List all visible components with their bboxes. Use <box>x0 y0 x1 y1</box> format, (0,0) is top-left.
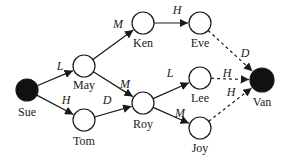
node-roy <box>132 92 154 114</box>
edge-label-may-roy: M <box>119 77 131 91</box>
node-may <box>73 55 95 77</box>
directed-graph-diagram: LHMMDHLMDHHSueMayTomKenEveRoyLeeJoyVan <box>0 0 283 167</box>
node-label-ken: Ken <box>133 36 153 50</box>
node-label-tom: Tom <box>73 134 95 148</box>
edge-sue-may <box>37 71 73 86</box>
edge-may-ken <box>93 30 133 59</box>
node-label-may: May <box>73 78 95 92</box>
node-label-van: Van <box>253 95 272 109</box>
node-label-lee: Lee <box>191 91 209 105</box>
node-lee <box>189 67 211 89</box>
node-label-roy: Roy <box>133 117 153 131</box>
edge-label-may-ken: M <box>112 17 124 31</box>
edge-label-roy-lee: L <box>166 66 174 80</box>
edge-label-eve-van: D <box>240 46 250 60</box>
edge-label-sue-may: L <box>56 59 64 73</box>
edge-label-tom-roy: D <box>102 93 112 107</box>
node-joy <box>189 117 211 139</box>
edge-label-sue-tom: H <box>61 93 72 107</box>
node-ken <box>132 12 154 34</box>
edge-roy-lee <box>153 83 189 99</box>
node-tom <box>73 109 95 131</box>
node-eve <box>189 12 211 34</box>
node-label-sue: Sue <box>18 105 36 119</box>
edge-label-joy-van: H <box>226 85 237 99</box>
edge-label-ken-eve: H <box>172 3 183 17</box>
edge-label-roy-joy: M <box>174 106 186 120</box>
node-van <box>250 68 274 92</box>
edge-tom-roy <box>95 106 132 117</box>
node-label-eve: Eve <box>191 36 210 50</box>
edge-label-lee-van: H <box>222 66 233 80</box>
node-label-joy: Joy <box>192 141 209 155</box>
node-sue <box>16 79 38 101</box>
